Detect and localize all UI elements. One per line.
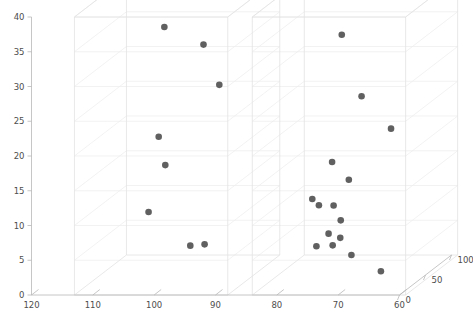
data-point [316,202,323,209]
plot-canvas: 051015202530354012011010090807060050100 [0,0,473,317]
grid-plane-right [228,116,280,156]
grid-plane-right [228,12,280,52]
box-top-edge [252,0,304,17]
data-point [330,202,337,209]
grid-plane-left [74,151,126,191]
data-point [329,159,336,166]
y-tick-label: 0 [19,290,24,300]
data-point [358,93,365,100]
y-tick-label: 20 [14,151,25,161]
data-point [309,196,316,203]
data-point [337,235,344,242]
box-top-edge [228,0,280,17]
x-tick-mark [338,290,345,296]
x-tick-label: 70 [333,300,344,310]
scatter3d-figure: 051015202530354012011010090807060050100 [0,0,473,317]
grid-layer [74,0,457,260]
grid-plane-right [406,116,458,156]
grid-plane-left [252,12,304,52]
grid-plane-left [74,47,126,87]
grid-plane-right [406,220,458,260]
data-point [329,242,336,249]
grid-plane-right [228,0,280,17]
data-point [155,133,162,140]
x-tick-mark [93,290,100,296]
x-tick-mark [32,290,39,296]
grid-plane-right [406,81,458,121]
data-point [161,24,168,31]
axis-layer [28,17,452,300]
x-tick-label: 110 [85,300,101,310]
x-tick-mark [216,290,223,296]
grid-plane-left [74,0,126,17]
grid-plane-right [228,186,280,226]
y-tick-label: 40 [14,12,25,22]
grid-plane-left [252,116,304,156]
grid-plane-left [252,186,304,226]
data-point [200,41,207,48]
grid-plane-right [228,151,280,191]
grid-plane-left [74,186,126,226]
data-point [162,162,169,169]
grid-plane-left [252,47,304,87]
z-tick-label: 100 [458,255,473,265]
z-tick-label: 50 [432,275,443,285]
grid-plane-right [406,47,458,87]
z-tick-label: 0 [406,295,411,305]
x-tick-mark [277,290,284,296]
grid-plane-left [252,151,304,191]
box-top-edge [406,0,458,17]
grid-plane-right [406,186,458,226]
data-point [325,230,332,237]
box-bottom-edge [74,255,126,295]
data-point [348,252,355,259]
data-point [388,125,395,132]
x-tick-mark [154,290,161,296]
data-point [346,176,353,183]
y-tick-label: 25 [14,116,25,126]
tick-label-layer: 051015202530354012011010090807060050100 [14,12,473,310]
data-point [378,268,385,275]
grid-plane-right [406,151,458,191]
x-tick-label: 90 [210,300,221,310]
x-tick-label: 80 [271,300,282,310]
grid-plane-right [228,47,280,87]
data-point [337,217,344,224]
box-bottom-edge [252,255,304,295]
y-tick-label: 35 [14,47,25,57]
data-point [201,241,208,248]
grid-plane-left [74,81,126,121]
x-tick-label: 100 [146,300,162,310]
data-point [145,209,152,216]
y-tick-label: 5 [19,255,24,265]
box-top-edge [74,0,126,17]
grid-plane-left [252,220,304,260]
data-point-layer [145,24,394,275]
grid-plane-right [228,81,280,121]
grid-plane-left [252,81,304,121]
grid-plane-left [252,0,304,17]
y-tick-label: 15 [14,186,25,196]
data-point [216,82,223,89]
y-tick-label: 10 [14,221,25,231]
grid-plane-right [406,0,458,17]
data-point [187,242,194,249]
grid-plane-left [74,220,126,260]
grid-plane-left [74,116,126,156]
x-tick-label: 60 [394,300,405,310]
box-wireframe-layer [74,0,457,295]
box-bottom-edge [228,255,280,295]
data-point [313,243,320,250]
y-tick-label: 30 [14,82,25,92]
grid-plane-right [406,12,458,52]
x-tick-label: 120 [23,300,39,310]
grid-plane-left [74,12,126,52]
grid-plane-right [228,220,280,260]
data-point [338,31,345,38]
